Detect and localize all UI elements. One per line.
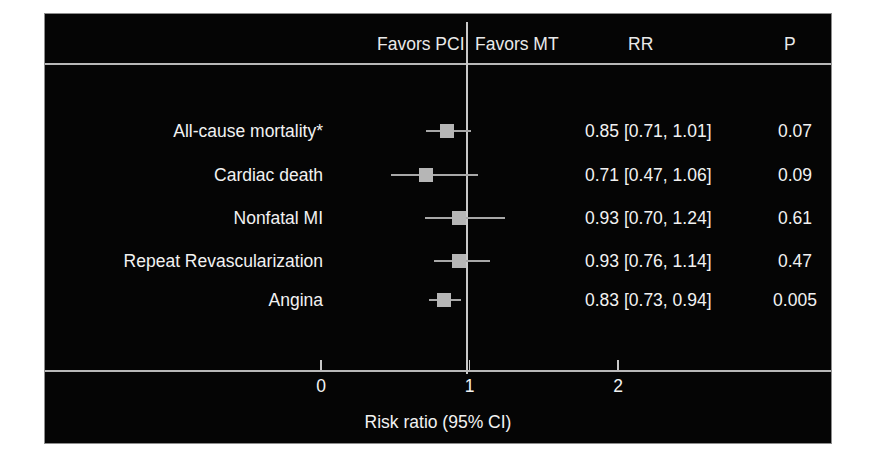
- row-label: Nonfatal MI: [234, 208, 323, 229]
- axis-tick-mark: [469, 360, 471, 370]
- point-estimate-marker: [452, 254, 466, 268]
- row-label: Angina: [269, 290, 324, 311]
- point-estimate-marker: [437, 293, 451, 307]
- table-row: Cardiac death0.71 [0.47, 1.06]0.09: [45, 153, 831, 197]
- row-p-value: 0.09: [767, 165, 823, 186]
- table-row: Nonfatal MI0.93 [0.70, 1.24]0.61: [45, 196, 831, 240]
- row-label: Cardiac death: [214, 165, 323, 186]
- row-p-value: 0.61: [767, 208, 823, 229]
- row-p-value: 0.07: [767, 121, 823, 142]
- axis-tick-label: 1: [465, 376, 475, 397]
- row-p-value: 0.005: [767, 290, 823, 311]
- forest-plot-figure: Favors PCI Favors MT RR P All-cause mort…: [44, 13, 832, 444]
- row-rr-value: 0.83 [0.73, 0.94]: [585, 290, 712, 311]
- axis-tick-label: 0: [316, 376, 326, 397]
- forest-rows: All-cause mortality*0.85 [0.71, 1.01]0.0…: [45, 14, 831, 370]
- row-label: All-cause mortality*: [173, 121, 323, 142]
- confidence-interval-line: [391, 174, 479, 176]
- axis-tick-mark: [320, 360, 322, 370]
- x-axis: Risk ratio (95% CI) 012: [45, 370, 831, 444]
- row-rr-value: 0.71 [0.47, 1.06]: [585, 165, 712, 186]
- axis-title: Risk ratio (95% CI): [45, 412, 831, 433]
- axis-tick-label: 2: [613, 376, 623, 397]
- point-estimate-marker: [452, 211, 466, 225]
- row-rr-value: 0.93 [0.76, 1.14]: [585, 251, 712, 272]
- point-estimate-marker: [440, 124, 454, 138]
- axis-tick-mark: [617, 360, 619, 370]
- table-row: Repeat Revascularization0.93 [0.76, 1.14…: [45, 239, 831, 283]
- table-row: All-cause mortality*0.85 [0.71, 1.01]0.0…: [45, 109, 831, 153]
- point-estimate-marker: [419, 168, 433, 182]
- row-p-value: 0.47: [767, 251, 823, 272]
- row-rr-value: 0.85 [0.71, 1.01]: [585, 121, 712, 142]
- row-rr-value: 0.93 [0.70, 1.24]: [585, 208, 712, 229]
- table-row: Angina0.83 [0.73, 0.94]0.005: [45, 278, 831, 322]
- row-label: Repeat Revascularization: [124, 251, 323, 272]
